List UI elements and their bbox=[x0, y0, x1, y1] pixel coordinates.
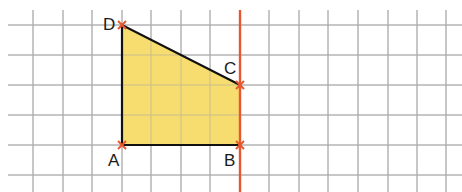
label-d: D bbox=[103, 15, 115, 34]
geometry-diagram: D C A B bbox=[0, 0, 462, 192]
label-c: C bbox=[224, 59, 236, 78]
label-b: B bbox=[224, 151, 235, 170]
label-a: A bbox=[108, 151, 120, 170]
